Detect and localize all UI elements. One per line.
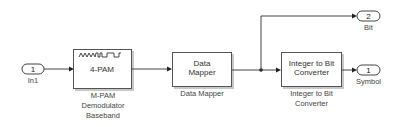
block-int2bit-label-line1: Integer to Bit (290, 89, 333, 98)
block-int2bit-icon-line2: Converter (294, 68, 329, 77)
block-mpam-demodulator[interactable]: 4-PAM M-PAM Demodulator Baseband (74, 50, 135, 121)
block-data-mapper-icon-line2: Mapper (188, 68, 215, 77)
block-mpam-icon-text: 4-PAM (90, 65, 114, 74)
block-data-mapper-icon-line1: Data (194, 59, 211, 68)
inport-in1[interactable]: 1 In1 (22, 64, 44, 85)
block-int2bit-label-line2: Converter (295, 99, 328, 108)
outport-symbol-label: Symbol (356, 77, 381, 86)
inport-in1-label: In1 (28, 76, 38, 85)
outport-bit-number: 2 (366, 12, 371, 21)
signal-line-in1-mpam[interactable] (44, 67, 74, 72)
arrowhead-icon (352, 14, 357, 19)
diagram-canvas: 1 In1 4-PAM M-PAM Demodulator Baseband D… (0, 0, 398, 127)
block-data-mapper-label: Data Mapper (180, 89, 224, 98)
outport-symbol-number: 1 (366, 66, 371, 75)
outport-bit-label: Bit (364, 23, 374, 32)
block-mpam-label-line1: M-PAM (91, 91, 115, 100)
block-mpam-label-line3: Baseband (86, 111, 120, 120)
arrowhead-icon (276, 68, 281, 73)
block-data-mapper[interactable]: Data Mapper Data Mapper (173, 53, 235, 99)
outport-symbol[interactable]: 1 Symbol (356, 65, 381, 86)
block-integer-to-bit-converter[interactable]: Integer to Bit Converter Integer to Bit … (282, 53, 345, 109)
outport-bit[interactable]: 2 Bit (357, 11, 380, 32)
inport-in1-number: 1 (31, 65, 36, 74)
block-int2bit-icon-line1: Integer to Bit (289, 59, 335, 68)
block-mpam-label-line2: Demodulator (82, 101, 125, 110)
arrowhead-icon (352, 68, 357, 73)
arrowhead-icon (167, 67, 172, 72)
signal-line-mpam-mapper[interactable] (132, 67, 173, 72)
